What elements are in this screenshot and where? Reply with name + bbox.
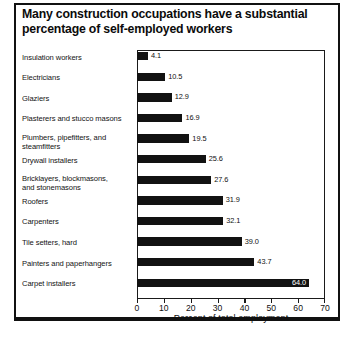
bar [137,155,206,163]
chart-title: Many construction occupations have a sub… [22,7,334,36]
bar-track: 43.7 [137,256,325,277]
category-label-line: Painters and paperhangers [22,259,134,268]
chart-title-line-2: percentage of self-employed workers [22,22,334,37]
bar [137,258,254,266]
bar-track: 10.5 [137,71,325,92]
category-label-line: Roofers [22,197,134,206]
x-axis-tick-label: 60 [293,303,303,313]
bar-row: Drywall installers25.6 [22,153,325,174]
bar-value-label: 39.0 [245,238,259,246]
bar-value-label: 16.9 [185,114,199,122]
bar-value-label: 64.0 [292,279,306,287]
category-label-line: Bricklayers, blockmasons, [22,174,134,183]
category-label: Plumbers, pipefitters, andsteamfitters [22,133,134,151]
category-label: Roofers [22,197,134,206]
bar-row: Bricklayers, blockmasons,and stonemasons… [22,174,325,195]
category-label: Painters and paperhangers [22,259,134,268]
category-label: Bricklayers, blockmasons,and stonemasons [22,174,134,192]
bar-value-label: 31.9 [226,196,240,204]
category-label: Carpet installers [22,279,134,288]
bar [137,237,242,245]
bar-track: 31.9 [137,194,325,215]
category-label-line: Plumbers, pipefitters, and [22,133,134,142]
bar [137,176,211,184]
category-label-line: Plasterers and stucco masons [22,114,134,123]
bar-row: Electricians10.5 [22,71,325,92]
bar-track: 16.9 [137,112,325,133]
category-label-line: Drywall installers [22,156,134,165]
category-label: Tile setters, hard [22,238,134,247]
bar-track: 12.9 [137,91,325,112]
bar-row: Roofers31.9 [22,194,325,215]
bar-track: 27.6 [137,174,325,195]
bar-value-label: 10.5 [168,73,182,81]
category-label: Drywall installers [22,156,134,165]
bar [137,73,165,81]
bar-track: 39.0 [137,235,325,256]
bar-track: 19.5 [137,132,325,153]
category-label-line: Glaziers [22,94,134,103]
x-axis-tick-label: 10 [159,303,169,313]
category-label: Carpenters [22,217,134,226]
category-label: Glaziers [22,94,134,103]
chart-figure: Many construction occupations have a sub… [0,0,357,349]
bar [137,279,309,287]
category-label-line: Carpet installers [22,279,134,288]
x-axis-tick-label: 40 [240,303,250,313]
x-axis-tick-label: 20 [186,303,196,313]
bar [137,93,172,101]
bar [137,217,223,225]
category-label-line: Electricians [22,73,134,82]
category-label: Electricians [22,73,134,82]
category-label-line: steamfitters [22,142,134,151]
category-label-line: Tile setters, hard [22,238,134,247]
bar-row: Carpenters32.1 [22,215,325,236]
bar-row: Insulation workers4.1 [22,50,325,71]
category-label: Plasterers and stucco masons [22,114,134,123]
bar-value-label: 4.1 [151,52,161,60]
bar-value-label: 43.7 [257,258,271,266]
bar-value-label: 27.6 [214,176,228,184]
category-label-line: Insulation workers [22,53,134,62]
bar-rows: Insulation workers4.1Electricians10.5Gla… [22,50,325,299]
bar [137,114,182,122]
x-axis-tick-label: 50 [267,303,277,313]
category-label: Insulation workers [22,53,134,62]
chart-title-line-1: Many construction occupations have a sub… [22,7,334,22]
x-axis-title: Percent of total employment [137,313,325,323]
bar-value-label: 32.1 [226,217,240,225]
bar-row: Painters and paperhangers43.7 [22,256,325,277]
bar-value-label: 19.5 [192,135,206,143]
bar-value-label: 25.6 [209,155,223,163]
bar-row: Plasterers and stucco masons16.9 [22,112,325,133]
bar-row: Carpet installers64.0 [22,277,325,298]
x-axis-tick-label: 70 [320,303,330,313]
category-label-line: Carpenters [22,217,134,226]
bar-track: 32.1 [137,215,325,236]
bar-row: Tile setters, hard39.0 [22,235,325,256]
x-axis-tick-label: 0 [135,303,140,313]
bar-track: 4.1 [137,50,325,71]
bar-row: Glaziers12.9 [22,91,325,112]
bar [137,196,223,204]
bar-row: Plumbers, pipefitters, andsteamfitters19… [22,132,325,153]
bar [137,52,148,60]
category-label-line: and stonemasons [22,183,134,192]
bar [137,134,189,142]
x-axis-tick-label: 30 [213,303,223,313]
bar-track: 64.0 [137,277,325,298]
bar-value-label: 12.9 [175,93,189,101]
bar-track: 25.6 [137,153,325,174]
